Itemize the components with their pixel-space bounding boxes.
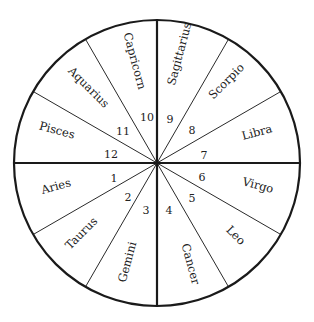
- wheel-svg: Aries Taurus Gemini Cancer Leo Virgo Lib…: [0, 0, 314, 322]
- sign-label-aquarius: Aquarius: [65, 63, 113, 111]
- divider-330: [157, 163, 281, 235]
- sign-label-scorpio: Scorpio: [205, 60, 247, 102]
- sign-label-pisces: Pisces: [38, 119, 77, 142]
- sign-label-aries: Aries: [39, 175, 73, 197]
- sign-label-capricorn: Capricorn: [121, 31, 150, 92]
- house-number-11: 11: [116, 125, 130, 138]
- house-number-6: 6: [199, 171, 206, 184]
- house-number-10: 10: [140, 111, 154, 124]
- sign-label-gemini: Gemini: [115, 240, 139, 284]
- divider-60: [157, 39, 229, 163]
- house-number-5: 5: [189, 192, 196, 205]
- sign-label-libra: Libra: [240, 121, 274, 143]
- sign-label-sagittarius: Sagittarius: [164, 21, 194, 87]
- sign-label-cancer: Cancer: [179, 242, 203, 286]
- sign-label-virgo: Virgo: [240, 174, 275, 196]
- house-number-9: 9: [167, 113, 174, 126]
- zodiac-wheel-diagram: Aries Taurus Gemini Cancer Leo Virgo Lib…: [0, 0, 314, 322]
- house-number-3: 3: [143, 204, 150, 217]
- center-point: [155, 161, 159, 165]
- house-number-7: 7: [201, 149, 208, 162]
- sign-label-taurus: Taurus: [62, 214, 100, 252]
- house-number-2: 2: [125, 191, 132, 204]
- sign-label-leo: Leo: [223, 223, 248, 248]
- house-number-12: 12: [104, 148, 118, 161]
- house-number-8: 8: [189, 124, 196, 137]
- house-number-1: 1: [111, 172, 118, 185]
- house-number-4: 4: [166, 204, 173, 217]
